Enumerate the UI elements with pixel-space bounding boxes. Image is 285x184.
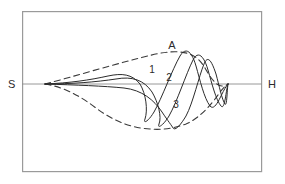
curve-label-1: 1 xyxy=(149,64,155,75)
apex-label-a: A xyxy=(168,39,176,51)
axis-label-h: H xyxy=(268,78,276,90)
curve-label-3: 3 xyxy=(173,99,179,110)
axis-label-s: S xyxy=(8,78,15,90)
figure-background xyxy=(0,0,285,184)
wave-propagation-diagram: S H A 1 2 3 xyxy=(0,0,285,184)
figure-container: S H A 1 2 3 xyxy=(0,0,285,184)
curve-label-2: 2 xyxy=(166,72,172,83)
